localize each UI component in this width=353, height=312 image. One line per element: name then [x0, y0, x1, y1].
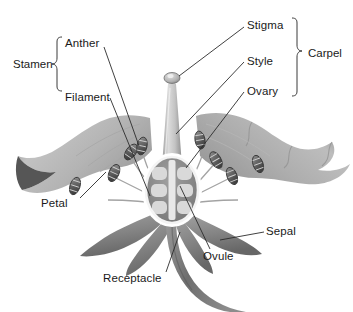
- label-ovule: Ovule: [203, 251, 234, 263]
- label-stigma: Stigma: [247, 20, 283, 32]
- bracket-carpel: [292, 18, 302, 96]
- label-anther: Anther: [65, 38, 99, 50]
- bracket-stamen: [52, 37, 62, 91]
- label-receptacle: Receptacle: [103, 273, 162, 285]
- petal-right: [196, 113, 350, 184]
- label-petal: Petal: [41, 198, 68, 210]
- flower-illustration: [0, 0, 353, 312]
- leader-stigma: [179, 27, 244, 76]
- label-stamen-group: Stamen: [13, 59, 53, 71]
- flower-diagram: Stigma Style Ovary Carpel Anther Filamen…: [0, 0, 353, 312]
- ovary: [142, 153, 202, 227]
- label-ovary: Ovary: [247, 86, 278, 98]
- stigma: [164, 73, 180, 84]
- label-filament: Filament: [65, 92, 110, 104]
- label-sepal: Sepal: [266, 226, 296, 238]
- label-style: Style: [247, 56, 273, 68]
- label-carpel-group: Carpel: [308, 48, 342, 60]
